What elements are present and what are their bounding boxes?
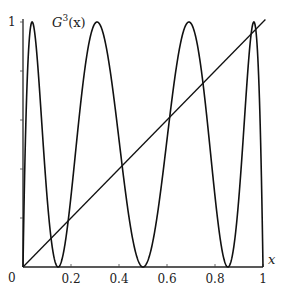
x-tick-label: 0.4: [109, 272, 128, 286]
function-label: G3(x): [52, 13, 86, 30]
x-tick-label: 0.6: [157, 272, 176, 286]
series-identity-line: [23, 20, 265, 267]
x-tick-label: 1: [259, 272, 267, 286]
function-label-arg: (x): [68, 15, 85, 30]
y-tick-label: 1: [8, 15, 16, 29]
origin-label: 0: [8, 271, 16, 285]
function-label-base: G: [52, 15, 62, 30]
x-tick-label: 0.2: [61, 272, 80, 286]
x-axis-label: x: [268, 252, 276, 267]
x-tick-label: 0.8: [205, 272, 224, 286]
chart: 1 0.20.40.60.81 0 x G3(x): [0, 0, 294, 295]
